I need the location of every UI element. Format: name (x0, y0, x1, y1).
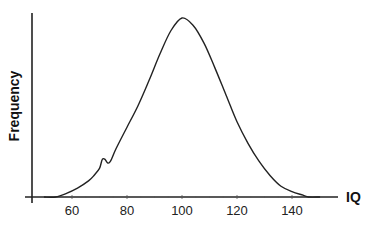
y-axis-title: Frequency (6, 70, 22, 141)
x-tick-label: 100 (171, 203, 193, 218)
x-axis-tick-labels: 6080100120140 (65, 203, 303, 218)
x-tick-label: 120 (226, 203, 248, 218)
x-tick-label: 60 (65, 203, 79, 218)
x-tick-label: 140 (281, 203, 303, 218)
distribution-curve (45, 18, 320, 197)
iq-distribution-chart: 6080100120140 IQ Frequency (0, 0, 369, 226)
x-tick-label: 80 (120, 203, 134, 218)
x-axis-minor-ticks (45, 195, 320, 199)
x-axis-title: IQ (346, 189, 361, 205)
